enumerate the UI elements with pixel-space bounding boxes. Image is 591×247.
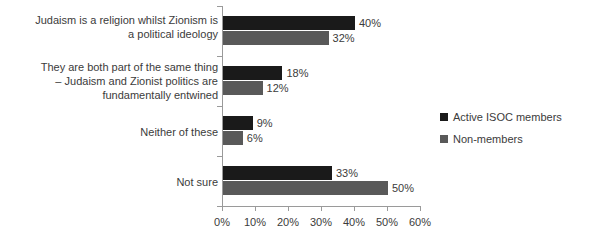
category-label-2: Neither of these [140,125,218,139]
category-tick-1 [217,56,222,57]
value-tick-label-6: 60% [400,216,440,228]
value-tick-0 [222,206,223,211]
category-tick-2 [217,106,222,107]
category-label-0: Judaism is a religion whilst Zionism is … [35,13,218,41]
category-tick-3 [217,156,222,157]
legend-swatch-icon-0 [440,113,448,121]
category-label-1: They are both part of the same thing – J… [41,60,218,102]
legend-item-0: Active ISOC members [440,106,562,128]
bar-value-series1-cat0: 32% [333,31,355,45]
legend-label-1: Non-members [453,133,523,145]
legend-label-0: Active ISOC members [453,111,562,123]
value-tick-5 [387,206,388,211]
chart-legend: Active ISOC members Non-members [440,106,562,150]
bar-series0-cat3 [223,166,332,180]
value-tick-3 [321,206,322,211]
value-tick-2 [288,206,289,211]
bar-series0-cat1 [223,66,282,80]
bar-series0-cat0 [223,16,355,30]
bar-series1-cat3 [223,181,388,195]
legend-item-1: Non-members [440,128,562,150]
value-tick-4 [354,206,355,211]
value-tick-6 [420,206,421,211]
bar-series1-cat2 [223,131,243,145]
bar-series0-cat2 [223,116,253,130]
bar-value-series0-cat2: 9% [257,116,273,130]
category-tick-0 [217,6,222,7]
bar-value-series0-cat0: 40% [359,16,381,30]
bar-value-series1-cat3: 50% [392,181,414,195]
bar-value-series1-cat1: 12% [267,81,289,95]
bar-value-series0-cat1: 18% [286,66,308,80]
bar-value-series0-cat3: 33% [336,166,358,180]
bar-value-series1-cat2: 6% [247,131,263,145]
bar-chart: Judaism is a religion whilst Zionism is … [0,0,591,247]
bar-series1-cat0 [223,31,329,45]
category-label-3: Not sure [176,175,218,189]
legend-swatch-icon-1 [440,135,448,143]
value-tick-1 [255,206,256,211]
bar-series1-cat1 [223,81,263,95]
